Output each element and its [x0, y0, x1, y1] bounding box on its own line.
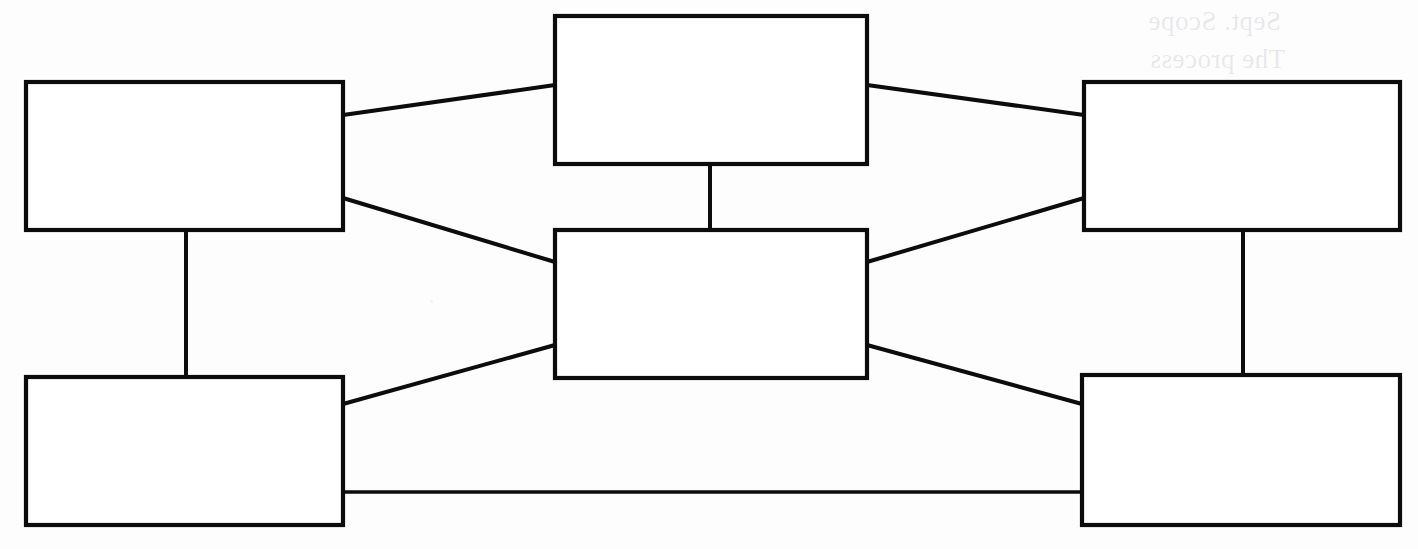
edge-center-topright	[867, 198, 1084, 262]
node-top-center-box[interactable]	[555, 16, 867, 164]
diagram-canvas: Sept. Scope The process	[0, 0, 1418, 549]
node-top-center[interactable]	[555, 16, 867, 164]
node-bottom-right-box[interactable]	[1082, 375, 1400, 525]
edge-topleft-center	[343, 198, 555, 262]
node-top-left-box[interactable]	[26, 82, 343, 230]
node-top-right[interactable]	[1084, 82, 1400, 230]
node-top-right-box[interactable]	[1084, 82, 1400, 230]
edge-center-bottomright	[867, 345, 1082, 404]
node-bottom-right[interactable]	[1082, 375, 1400, 525]
node-top-left[interactable]	[26, 82, 343, 230]
nodes-layer	[26, 16, 1400, 525]
node-bottom-left[interactable]	[26, 377, 343, 525]
node-center-box[interactable]	[555, 230, 867, 378]
edge-bottomleft-center	[343, 345, 555, 404]
node-bottom-left-box[interactable]	[26, 377, 343, 525]
edge-topcenter-topright	[867, 85, 1084, 115]
node-center[interactable]	[555, 230, 867, 378]
concept-map-svg	[0, 0, 1418, 549]
edge-topleft-topcenter	[343, 85, 555, 115]
